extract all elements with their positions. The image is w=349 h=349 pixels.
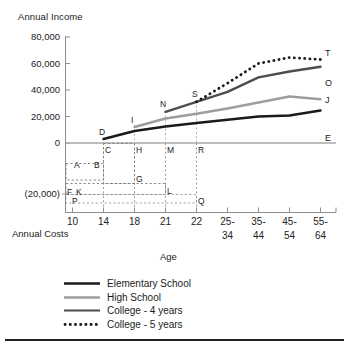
chart-figure: Annual Income Annual Costs Age 80,000 60… (0, 0, 349, 349)
legend-swatch-college-5-years (63, 319, 101, 330)
point-label-A: A (74, 160, 80, 170)
series-line-elementary-school (104, 111, 321, 140)
legend-item-high-school: High School (63, 291, 303, 305)
point-label-D: D (99, 127, 105, 137)
legend-label-college-4-years: College - 4 years (107, 305, 183, 316)
point-label-I: I (131, 115, 133, 125)
point-label-L: L (167, 186, 172, 196)
x-tick-label-55-64-bottom: 64 (301, 230, 340, 241)
point-label-G: G (136, 174, 143, 184)
legend-item-college-4-years: College - 4 years (63, 304, 303, 318)
point-label-H: H (136, 145, 142, 155)
legend-item-college-5-years: College - 5 years (63, 318, 303, 332)
bottom-rule (5, 339, 344, 341)
point-label-M: M (167, 145, 174, 155)
point-label-Q: Q (198, 196, 205, 206)
legend-swatch-high-school (63, 292, 101, 303)
legend-label-high-school: High School (107, 292, 161, 303)
point-label-C: C (105, 145, 111, 155)
x-tick-marks (73, 208, 337, 213)
legend-label-elementary-school: Elementary School (107, 278, 191, 289)
end-label-J: J (325, 95, 330, 105)
legend-swatch-college-4-years (63, 305, 101, 316)
end-label-T: T (325, 48, 331, 58)
vertical-guide-lines (104, 143, 197, 208)
point-label-N: N (160, 99, 166, 109)
x-tick-label-55-64-top: 55- (301, 216, 340, 227)
legend-swatch-elementary-school (63, 278, 101, 289)
point-label-R: R (198, 145, 204, 155)
point-label-S: S (192, 89, 198, 99)
end-label-E: E (325, 133, 331, 143)
cost-box-P-Q (66, 195, 197, 204)
legend-label-college-5-years: College - 5 years (107, 319, 183, 330)
point-label-P: P (72, 196, 78, 206)
chart-legend: Elementary School High School College - … (63, 277, 303, 331)
end-label-O: O (325, 78, 332, 88)
legend-item-elementary-school: Elementary School (63, 277, 303, 291)
point-label-B: B (94, 160, 100, 170)
